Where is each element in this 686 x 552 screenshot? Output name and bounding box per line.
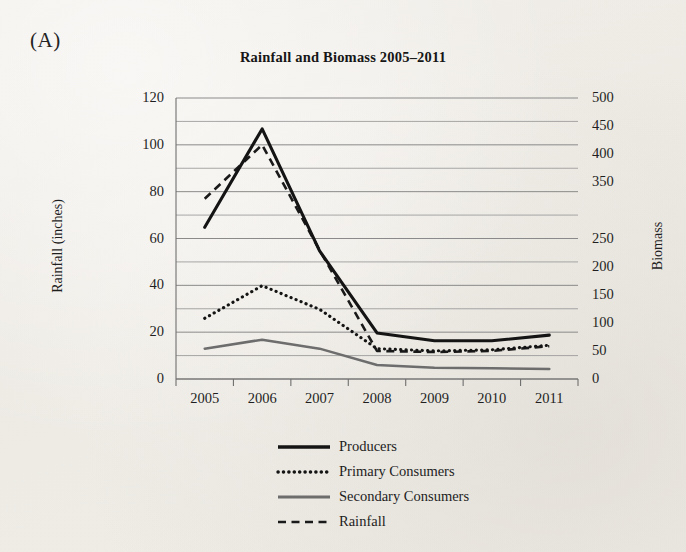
x-axis-tick-label: 2010 <box>462 391 522 406</box>
y-axis-left-tick-label: 120 <box>120 90 164 105</box>
legend-swatches <box>278 447 330 522</box>
x-axis-tick-label: 2011 <box>519 391 579 406</box>
x-axis-tick-label: 2006 <box>232 391 292 406</box>
legend-item-label: Secondary Consumers <box>339 488 469 505</box>
y-axis-right-tick-label: 50 <box>592 343 636 358</box>
x-axis-tick-label: 2009 <box>404 391 464 406</box>
y-axis-left-tick-label: 60 <box>120 231 164 246</box>
legend-item-label: Producers <box>339 438 397 455</box>
y-axis-right-tick-label: 100 <box>592 315 636 330</box>
y-axis-right-tick-label: 150 <box>592 287 636 302</box>
x-axis-tick-label: 2005 <box>175 391 235 406</box>
data-series <box>205 129 550 369</box>
y-axis-right-tick-label: 350 <box>592 174 636 189</box>
axis-tickmarks <box>176 379 578 386</box>
y-axis-left-tick-label: 20 <box>120 324 164 339</box>
x-axis-tick-label: 2007 <box>290 391 350 406</box>
series-line-secondary-consumers <box>205 340 550 369</box>
y-axis-left-tick-label: 40 <box>120 277 164 292</box>
legend-item-label: Rainfall <box>339 513 386 530</box>
y-axis-right-tick-label: 400 <box>592 146 636 161</box>
y-axis-right-tick-label: 250 <box>592 231 636 246</box>
series-line-rainfall <box>205 145 550 352</box>
y-axis-right-tick-label: 0 <box>592 371 636 386</box>
y-axis-left-tick-label: 80 <box>120 184 164 199</box>
y-axis-right-tick-label: 450 <box>592 118 636 133</box>
y-axis-left-tick-label: 100 <box>120 137 164 152</box>
x-axis-tick-label: 2008 <box>347 391 407 406</box>
y-axis-left-tick-label: 0 <box>120 371 164 386</box>
y-axis-right-tick-label: 500 <box>592 90 636 105</box>
chart-figure: (A) Rainfall and Biomass 2005–2011 Rainf… <box>0 0 686 552</box>
y-axis-right-tick-label: 200 <box>592 259 636 274</box>
legend-item-label: Primary Consumers <box>339 463 455 480</box>
